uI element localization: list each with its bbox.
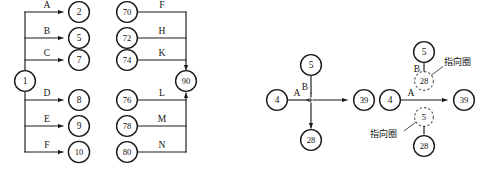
fanout-branch-f-label: F — [44, 140, 49, 150]
node-90-label: 90 — [182, 76, 191, 86]
right-annotation-upper-text: 指向圈 — [444, 56, 471, 67]
node-74-label: 74 — [123, 55, 132, 65]
fanin-branch-f-label: F — [159, 0, 164, 10]
diagram-svg: A 2 B 5 C 7 1 D 8 E 9 — [0, 0, 484, 171]
node-2-label: 2 — [77, 7, 82, 17]
fanin-branch-h-label: H — [159, 26, 166, 36]
fanout-branch-e-label: E — [44, 114, 50, 124]
right-horizontal-label-a: A — [408, 88, 415, 98]
left-diagram-group: A 2 B 5 C 7 1 D 8 E 9 — [15, 0, 197, 163]
fanout-branch-c-label: C — [44, 48, 50, 58]
right-annotation-lower-leader — [404, 122, 416, 131]
node-70-label: 70 — [123, 7, 132, 17]
node-1-label: 1 — [23, 76, 28, 86]
fanout-branch-a-label: A — [44, 0, 51, 10]
node-80-label: 80 — [123, 147, 132, 157]
mid-node-28-label: 28 — [307, 135, 316, 145]
mid-node-39-label: 39 — [360, 95, 369, 105]
mid-node-4-label: 4 — [275, 95, 280, 105]
node-8-label: 8 — [77, 95, 82, 105]
mid-horizontal-label-a: A — [294, 88, 301, 98]
right-annotation-upper-leader — [431, 67, 443, 76]
right-dashed-circle-upper-label: 28 — [420, 76, 429, 86]
fanin-branch-l-label: L — [159, 88, 165, 98]
node-7-label: 7 — [77, 55, 82, 65]
right-node-28-label: 28 — [420, 141, 429, 151]
node-78-label: 78 — [123, 121, 132, 131]
fanin-branch-n-label: N — [159, 140, 166, 150]
fanout-branch-b-label: B — [44, 26, 50, 36]
figure-canvas: A 2 B 5 C 7 1 D 8 E 9 — [0, 0, 484, 171]
node-76-label: 76 — [123, 95, 132, 105]
right-diagram-group: 5 B 28 指向圈 4 A 39 5 指向圈 — [370, 42, 474, 157]
node-9-label: 9 — [77, 121, 82, 131]
node-72-label: 72 — [123, 33, 132, 43]
mid-node-5-label: 5 — [309, 60, 314, 70]
right-annotation-lower-text: 指向圈 — [370, 128, 397, 139]
mid-vertical-label-b: B — [302, 82, 308, 92]
fanin-branch-k-label: K — [159, 48, 166, 58]
mid-crossing-hop — [307, 99, 311, 101]
fanin-branch-m-label: M — [158, 114, 167, 124]
node-10-label: 10 — [75, 147, 84, 157]
right-node-39-label: 39 — [460, 95, 469, 105]
right-node-5-label: 5 — [422, 47, 427, 57]
right-dashed-circle-lower-label: 5 — [422, 112, 426, 122]
right-vertical-label-b: B — [414, 64, 420, 74]
right-node-4-label: 4 — [388, 95, 393, 105]
fanout-branch-d-label: D — [44, 88, 51, 98]
middle-diagram-group: 5 B 4 A 39 28 — [267, 55, 375, 151]
node-5-left-label: 5 — [77, 33, 82, 43]
